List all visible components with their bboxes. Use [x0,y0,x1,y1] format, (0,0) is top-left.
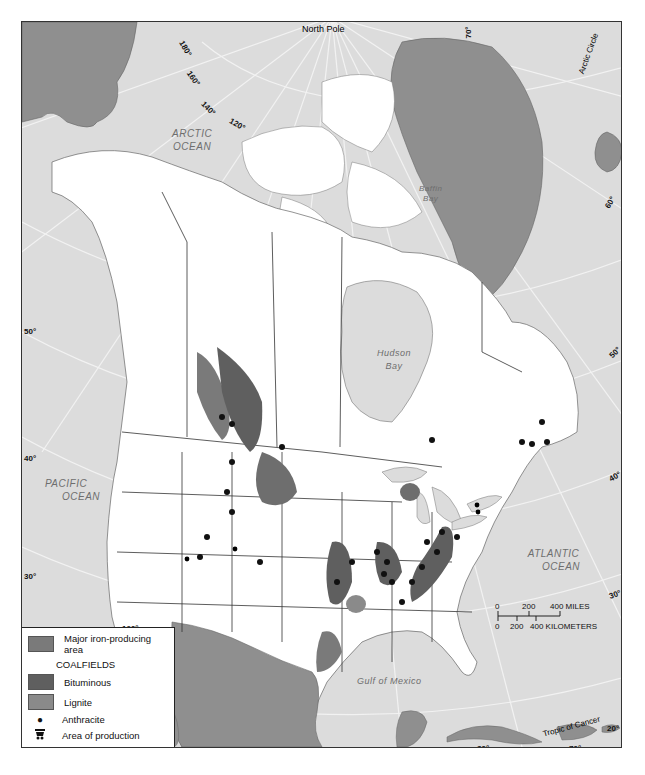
north-pole-label: North Pole [302,24,345,34]
caribbean-islands [447,724,620,744]
scale-bar: 0 200 400 MILES 0 200 400 KILOMETERS [492,602,622,642]
pacific-ocean-label: PACIFICOCEAN [32,477,100,503]
legend-item-lignite: Lignite [28,694,168,710]
lon-80-label: 80° [477,744,489,748]
lignite-swatch [28,694,54,710]
scale-km-200: 200 [510,622,523,631]
lat-40-left-label: 40° [24,454,36,463]
scale-km-0: 0 [495,622,499,631]
legend: Major iron-producingarea COALFIELDS Bitu… [22,627,175,747]
anthracite-dot-icon: ● [28,714,52,725]
legend-item-bituminous: Bituminous [28,674,168,690]
lignite-field [346,595,366,613]
gulf-of-mexico-label: Gulf of Mexico [357,675,422,688]
iceland-landmass [595,132,621,172]
iron-swatch [28,636,54,652]
mine-cart-icon [28,729,52,742]
legend-item-production: Area of production [28,729,168,742]
scale-miles-400: 400 MILES [550,602,590,611]
legend-coalfields-heading: COALFIELDS [56,659,168,670]
lat-30-left-label: 30° [24,572,36,581]
hudson-bay-label: HudsonBay [377,347,411,373]
lat-20-right-label: 20° [607,724,619,733]
lon-70-top-label: 70° [464,26,473,38]
legend-item-iron: Major iron-producingarea [28,633,168,655]
legend-item-anthracite: ● Anthracite [28,714,168,725]
bituminous-swatch [28,674,54,690]
scale-miles-0: 0 [495,602,499,611]
baffin-bay-label: BaffinBay [419,184,442,204]
asia-landmass [22,22,137,127]
lon-110-label: 110° [185,747,201,748]
yucatan [396,711,427,747]
lat-50-left-label: 50° [24,327,36,336]
arctic-ocean-label: ARCTICOCEAN [172,127,212,153]
atlantic-ocean-label: ATLANTICOCEAN [527,547,580,573]
map-frame: North Pole Arctic Circle Tropic of Cance… [21,21,622,748]
scale-km-400: 400 KILOMETERS [530,622,597,631]
lon-70-bottom-label: 70° [569,744,581,748]
iron-area [400,483,420,501]
scale-miles-200: 200 [522,602,535,611]
